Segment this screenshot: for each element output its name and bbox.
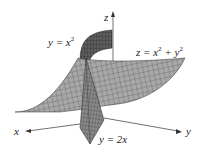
z-axis-label: z (104, 12, 108, 23)
paraboloid-surface (15, 58, 185, 112)
x-axis (25, 124, 80, 133)
cylinder-equation-label: y = x2 (48, 37, 74, 48)
y-axis-label: y (186, 126, 191, 137)
paraboloid-equation-label: z = x2 + y2 (136, 47, 183, 58)
surface-diagram (0, 0, 201, 154)
plane-equation-label: y = 2x (99, 134, 127, 145)
x-axis-label: x (14, 126, 19, 137)
y-axis (104, 118, 182, 134)
